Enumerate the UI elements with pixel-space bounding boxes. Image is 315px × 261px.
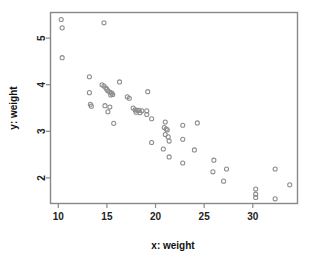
y-axis-label: y: weight xyxy=(8,86,19,130)
data-point-marker xyxy=(163,120,167,124)
data-point-marker xyxy=(103,104,107,108)
data-point-marker xyxy=(150,117,154,121)
data-point-marker xyxy=(211,170,215,174)
data-point-marker xyxy=(222,179,226,183)
data-points xyxy=(59,17,292,200)
y-tick-label: 4 xyxy=(36,81,47,87)
x-tick-label: 15 xyxy=(101,211,113,222)
data-point-marker xyxy=(254,187,258,191)
data-point-marker xyxy=(87,75,91,79)
x-tick-label: 25 xyxy=(199,211,211,222)
y-tick-label: 5 xyxy=(36,35,47,41)
data-point-marker xyxy=(192,148,196,152)
data-point-marker xyxy=(106,110,110,114)
data-point-marker xyxy=(146,90,150,94)
data-point-marker xyxy=(161,147,165,151)
data-point-marker xyxy=(117,80,121,84)
x-tick-label: 20 xyxy=(150,211,162,222)
data-point-marker xyxy=(167,139,171,143)
data-point-marker xyxy=(150,140,154,144)
data-point-marker xyxy=(224,167,228,171)
x-tick-label: 10 xyxy=(53,211,65,222)
scatter-plot-figure: 1015202530 2345 x: weight y: weight xyxy=(0,0,315,261)
data-point-marker xyxy=(273,197,277,201)
plot-canvas: 1015202530 2345 x: weight y: weight xyxy=(0,0,315,261)
y-tick-label: 2 xyxy=(36,175,47,181)
data-point-marker xyxy=(166,135,170,139)
plot-frame xyxy=(51,13,298,204)
x-tick-label: 30 xyxy=(247,211,259,222)
data-point-marker xyxy=(87,91,91,95)
data-point-marker xyxy=(181,161,185,165)
data-point-marker xyxy=(181,123,185,127)
data-point-marker xyxy=(212,158,216,162)
plot-frame-rect xyxy=(51,13,298,204)
data-point-marker xyxy=(288,183,292,187)
data-point-marker xyxy=(195,121,199,125)
x-axis-label: x: weight xyxy=(151,240,195,251)
data-point-marker xyxy=(273,167,277,171)
data-point-marker xyxy=(181,137,185,141)
y-axis-ticks: 2345 xyxy=(36,35,51,181)
data-point-marker xyxy=(112,121,116,125)
data-point-marker xyxy=(102,21,106,25)
y-tick-label: 3 xyxy=(36,128,47,134)
data-point-marker xyxy=(108,105,112,109)
data-point-marker xyxy=(167,155,171,159)
x-axis-ticks: 1015202530 xyxy=(53,204,259,222)
data-point-marker xyxy=(60,26,64,30)
data-point-marker xyxy=(59,17,63,21)
data-point-marker xyxy=(60,56,64,60)
